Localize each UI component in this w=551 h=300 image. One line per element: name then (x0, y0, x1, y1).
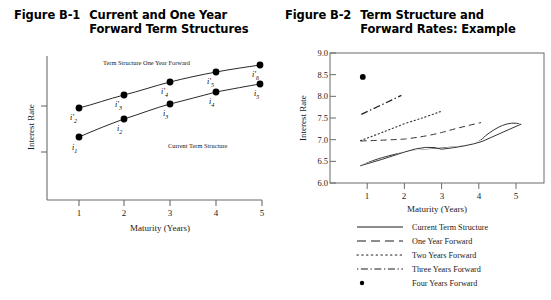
point-label-i-prime-2: i′2 (70, 113, 77, 124)
legend-label-three-years-forward: Three Years Forward (412, 265, 481, 274)
xtick-b2-1: 1 (357, 191, 377, 201)
xtick-b2-3: 3 (432, 191, 452, 201)
annotation-current-term-structure: Current Term Structure (168, 142, 227, 149)
legend-item-current-term-structure: Current Term Structure (355, 220, 488, 234)
ytick-b2-8-5: 8.5 (302, 70, 328, 80)
point-label-i-1: i1 (72, 143, 77, 154)
figure-b1-panel: Figure B-1 Current and One Year Forward … (0, 0, 276, 300)
legend-item-three-years-forward: Three Years Forward (355, 262, 488, 276)
legend-label-current-term-structure: Current Term Structure (412, 223, 488, 232)
legend-item-two-years-forward: Two Years Forward (355, 248, 488, 262)
xtick-b1-1: 1 (69, 208, 89, 218)
point-label-i-prime-6: i′6 (252, 70, 259, 81)
yaxis-label-b2: Interest Rate (298, 83, 308, 153)
legend-item-one-year-forward: One Year Forward (355, 234, 488, 248)
legend-key-dashdot-line-icon (355, 263, 405, 275)
yaxis-label-b1: Interest Rate (26, 92, 36, 162)
ytick-b2-9-0: 9.0 (302, 48, 328, 58)
ytick-b2-6-5: 6.5 (302, 156, 328, 166)
point-label-i-prime-4: i′4 (161, 87, 168, 98)
point-label-i-5: i5 (254, 89, 259, 100)
figure-b2-legend: Current Term Structure One Year Forward … (355, 220, 488, 290)
xtick-b2-2: 2 (394, 191, 414, 201)
point-label-i-prime-3: i′3 (115, 100, 122, 111)
legend-key-dashed-line-icon (355, 235, 405, 247)
legend-label-one-year-forward: One Year Forward (412, 237, 472, 246)
legend-label-four-years-forward: Four Years Forward (412, 279, 477, 288)
ytick-b2-6-0: 6.0 (302, 178, 328, 188)
figure-sheet: Figure B-1 Current and One Year Forward … (0, 0, 551, 300)
xtick-b1-2: 2 (114, 208, 134, 218)
legend-label-two-years-forward: Two Years Forward (412, 251, 476, 260)
annotation-term-structure-one-year-forward: Term Structure One Year Forward (103, 59, 190, 66)
xtick-b2-5: 5 (506, 191, 526, 201)
xaxis-label-b2: Maturity (Years) (382, 204, 492, 214)
legend-key-point-marker-icon (355, 277, 405, 289)
xtick-b1-4: 4 (206, 208, 226, 218)
legend-item-four-years-forward: Four Years Forward (355, 276, 488, 290)
xtick-b1-3: 3 (160, 208, 180, 218)
xaxis-label-b1: Maturity (Years) (105, 223, 215, 233)
figure-b1-plot (0, 0, 276, 300)
point-label-i-4: i4 (209, 97, 214, 108)
xtick-b1-5: 5 (252, 208, 272, 218)
point-label-i-2: i2 (117, 124, 122, 135)
point-label-i-3: i3 (163, 109, 168, 120)
xtick-b2-4: 4 (469, 191, 489, 201)
point-label-i-prime-5: i′5 (207, 77, 214, 88)
legend-key-solid-line-icon (355, 221, 405, 233)
legend-key-dotted-line-icon (355, 249, 405, 261)
